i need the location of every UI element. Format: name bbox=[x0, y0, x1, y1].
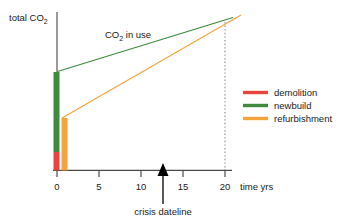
legend-label-demolition: demolition bbox=[274, 87, 317, 98]
line-refurbishment bbox=[62, 15, 241, 118]
chart-canvas: 0 5 10 15 20 time yrs total CO2 CO2 in u… bbox=[0, 0, 342, 224]
crisis-dateline-arrowhead bbox=[158, 163, 169, 176]
legend-item-demolition[interactable]: demolition bbox=[243, 87, 317, 98]
legend-item-refurbishment[interactable]: refurbishment bbox=[243, 113, 332, 124]
x-tick-label-0: 0 bbox=[54, 181, 59, 192]
legend-item-newbuild[interactable]: newbuild bbox=[243, 100, 312, 111]
line-newbuild bbox=[58, 18, 234, 72]
annotation-co2-tail: in use bbox=[123, 29, 151, 40]
annotation-co2-main: CO bbox=[105, 29, 119, 40]
x-axis-ticks bbox=[57, 170, 225, 177]
legend-label-newbuild: newbuild bbox=[274, 100, 312, 111]
x-tick-label-20: 20 bbox=[220, 181, 231, 192]
annotation-co2-in-use: CO2 in use bbox=[105, 29, 151, 42]
bar-newbuild bbox=[54, 72, 60, 152]
x-tick-label-15: 15 bbox=[178, 181, 189, 192]
legend: demolition newbuild refurbishment bbox=[243, 87, 332, 124]
x-tick-label-5: 5 bbox=[96, 181, 101, 192]
legend-label-refurbishment: refurbishment bbox=[274, 113, 332, 124]
y-axis-title-main: total CO bbox=[9, 12, 44, 23]
x-axis-title: time yrs bbox=[240, 181, 274, 192]
chart-figure: 0 5 10 15 20 time yrs total CO2 CO2 in u… bbox=[0, 0, 342, 224]
crisis-dateline-label: crisis dateline bbox=[134, 206, 192, 217]
y-axis-title-subscript: 2 bbox=[44, 18, 48, 25]
bar-refurbishment bbox=[62, 118, 68, 170]
y-axis-title: total CO2 bbox=[9, 12, 48, 25]
x-tick-label-10: 10 bbox=[136, 181, 147, 192]
crisis-dateline-pointer bbox=[158, 163, 169, 204]
bar-demolition bbox=[54, 152, 60, 170]
